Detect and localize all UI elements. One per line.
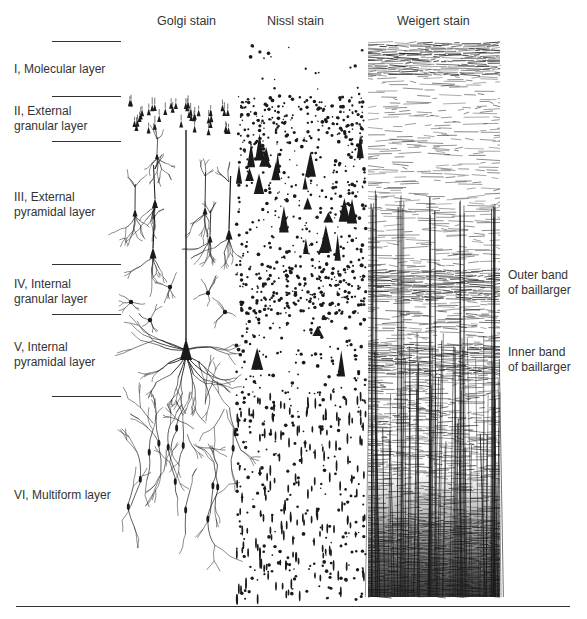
nissl-stain-panel — [234, 44, 367, 605]
bottom-rule — [16, 606, 570, 607]
stain-illustrations — [0, 0, 587, 619]
golgi-stain-panel — [108, 95, 260, 571]
weigert-stain-panel — [365, 42, 503, 598]
